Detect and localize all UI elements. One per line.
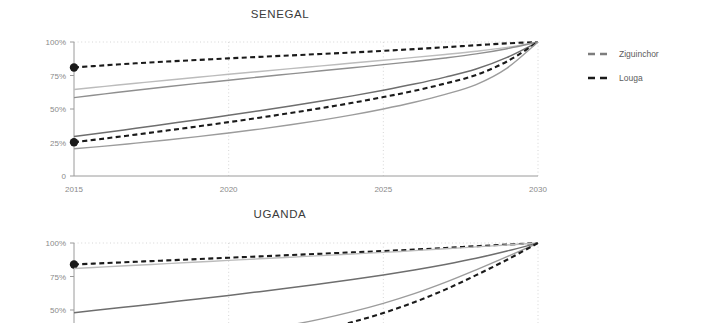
x-tick-label: 2020 — [220, 185, 238, 194]
x-tick-label: 2030 — [529, 185, 547, 194]
series-line — [74, 243, 538, 268]
legend-item-louga[interactable]: Louga — [588, 68, 715, 87]
series-line — [74, 42, 538, 90]
y-tick-label: 75% — [50, 273, 66, 282]
legend-swatch-ziguinchor — [588, 49, 610, 59]
y-tick-label: 25% — [50, 139, 66, 148]
y-tick-label: 50% — [50, 306, 66, 315]
chart-page: SENEGAL 025%50%75%100%2015202020252030 Z… — [0, 0, 715, 323]
series-line — [74, 243, 538, 323]
series-start-marker — [70, 63, 78, 71]
legend-item-ziguinchor[interactable]: Ziguinchor — [588, 44, 715, 63]
legend-senegal: Ziguinchor Louga — [588, 44, 715, 92]
series-line — [74, 243, 538, 264]
plot-area-uganda: 50%75%100% — [0, 200, 570, 323]
y-tick-label: 100% — [46, 38, 66, 47]
series-line — [74, 243, 538, 323]
plot-area-senegal: 025%50%75%100%2015202020252030 — [0, 0, 570, 200]
legend-swatch-louga — [588, 73, 610, 83]
line-chart-senegal: 025%50%75%100%2015202020252030 — [0, 0, 570, 200]
legend-label-louga: Louga — [619, 73, 643, 83]
x-tick-label: 2025 — [374, 185, 392, 194]
y-tick-label: 75% — [50, 72, 66, 81]
chart-panel-uganda: UGANDA 50%75%100% Kampala Karamoja — [0, 200, 715, 323]
line-chart-uganda: 50%75%100% — [0, 200, 570, 323]
y-tick-label: 100% — [46, 239, 66, 248]
x-tick-label: 2015 — [65, 185, 83, 194]
series-start-marker — [70, 260, 78, 268]
legend-label-ziguinchor: Ziguinchor — [619, 49, 659, 59]
series-line — [74, 42, 538, 98]
chart-panel-senegal: SENEGAL 025%50%75%100%2015202020252030 Z… — [0, 0, 715, 200]
series-start-marker — [70, 138, 78, 146]
y-tick-label: 50% — [50, 105, 66, 114]
y-tick-label: 0 — [62, 172, 67, 181]
